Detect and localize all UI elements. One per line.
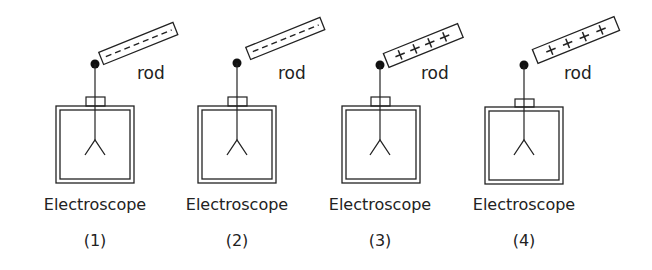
device-label: Electroscope	[44, 195, 146, 214]
rod-3	[383, 24, 463, 68]
panel-index: (4)	[513, 231, 536, 250]
rod-4	[532, 17, 619, 64]
electroscope-case-inner	[346, 110, 416, 179]
electroscope-diagram: rod Electroscope (1) rod Electroscope (2…	[0, 0, 652, 270]
negative-charge-marks	[253, 25, 319, 52]
rod-label: rod	[564, 63, 592, 83]
panel-index: (2)	[226, 231, 249, 250]
rod-1	[99, 22, 178, 64]
rod-label: rod	[421, 63, 449, 83]
negative-charge-marks	[106, 30, 172, 57]
rod-label: rod	[278, 63, 306, 83]
rod-label: rod	[137, 63, 165, 83]
panel-index: (3)	[369, 231, 392, 250]
panel-index: (1)	[84, 231, 107, 250]
panel-1: rod Electroscope (1)	[44, 22, 178, 250]
electroscope-leaves	[85, 140, 105, 155]
electroscope-leaves	[227, 140, 247, 155]
panel-2: rod Electroscope (2)	[186, 17, 325, 250]
electroscope-leaves	[514, 140, 534, 155]
panel-3: rod Electroscope (3)	[329, 24, 463, 250]
panel-4: rod Electroscope (4)	[473, 17, 620, 250]
electroscope-leaves	[370, 140, 390, 155]
electroscope-case-outer	[342, 106, 420, 183]
device-label: Electroscope	[186, 195, 288, 214]
rod-2	[246, 17, 325, 59]
device-label: Electroscope	[473, 195, 575, 214]
device-label: Electroscope	[329, 195, 431, 214]
